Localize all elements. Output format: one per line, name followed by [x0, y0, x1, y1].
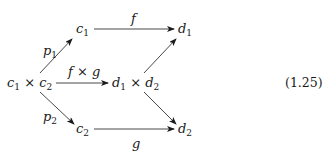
edge-label-f-times-g: f × g — [68, 65, 100, 78]
node-c1-times-c2: c1 × c2 — [7, 76, 52, 92]
node-c2: c2 — [76, 122, 89, 138]
edge-label-p2: p2 — [43, 110, 57, 126]
node-d1-times-d2: d1 × d2 — [112, 76, 159, 92]
equation-number: (1.25) — [285, 77, 323, 90]
commutative-diagram: c1 d1 c1 × c2 d1 × d2 c2 d2 f f × g g p1… — [0, 0, 330, 158]
edge-label-f: f — [131, 12, 136, 25]
edge-label-g: g — [132, 137, 140, 150]
edge-label-p1: p1 — [43, 44, 57, 60]
arrow-d1xd2-to-d1 — [144, 39, 176, 73]
node-c1: c1 — [76, 22, 89, 38]
arrow-d1xd2-to-d2 — [144, 92, 176, 124]
node-d2: d2 — [178, 122, 192, 138]
node-d1: d1 — [178, 22, 192, 38]
